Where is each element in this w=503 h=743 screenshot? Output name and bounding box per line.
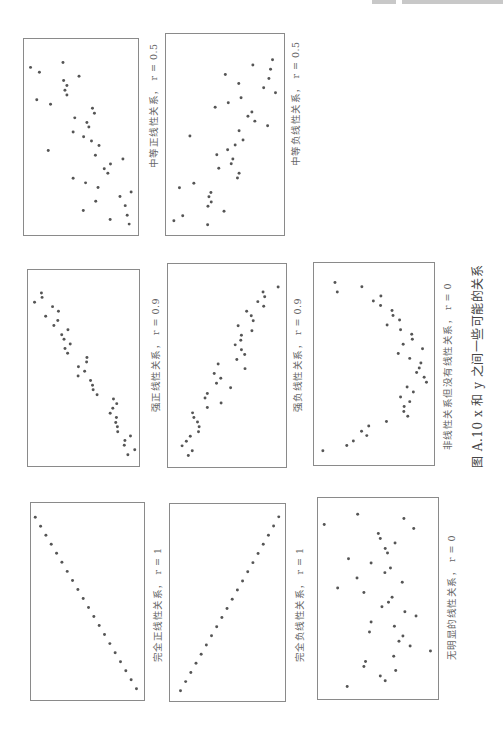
data-point	[242, 138, 245, 141]
data-point	[34, 516, 37, 519]
data-point	[227, 101, 230, 104]
data-point	[236, 176, 239, 179]
data-point	[226, 607, 229, 610]
data-point	[392, 314, 395, 317]
data-point	[63, 89, 66, 92]
data-point	[269, 68, 272, 71]
data-point	[205, 644, 208, 647]
data-point	[198, 425, 201, 428]
data-point	[135, 687, 138, 690]
data-point	[272, 525, 275, 528]
data-point	[231, 158, 234, 161]
data-point	[210, 201, 213, 204]
data-point	[334, 281, 337, 284]
data-point	[78, 75, 81, 78]
data-point	[336, 586, 339, 589]
data-point	[323, 523, 326, 526]
data-point	[93, 112, 96, 115]
data-point	[364, 660, 367, 663]
data-point	[94, 200, 97, 203]
data-point	[244, 367, 247, 370]
data-point	[245, 310, 248, 313]
data-point	[251, 561, 254, 564]
data-point	[215, 625, 218, 628]
data-point	[106, 172, 109, 175]
data-point	[380, 605, 383, 608]
data-point	[103, 633, 106, 636]
data-point	[386, 552, 389, 555]
data-point	[360, 430, 363, 433]
data-point	[425, 381, 428, 384]
data-point	[66, 328, 69, 331]
panel-label-f: 完全正线性关系， r = 1	[150, 547, 164, 662]
data-point	[92, 615, 95, 618]
data-point	[398, 319, 401, 322]
data-point	[240, 348, 243, 351]
data-point	[406, 386, 409, 389]
data-point	[119, 195, 122, 198]
data-point	[236, 589, 239, 592]
data-point	[181, 444, 184, 447]
data-point	[112, 398, 115, 401]
scatter-panel-h	[317, 497, 439, 700]
data-point	[77, 374, 80, 377]
data-point	[356, 513, 359, 516]
data-point	[401, 581, 404, 584]
data-point	[223, 210, 226, 213]
figure-caption: 图 A.10 x 和 y 之间一些可能的关系	[468, 265, 485, 468]
data-point	[116, 430, 119, 433]
data-point	[412, 527, 415, 530]
data-point	[347, 557, 350, 560]
data-point	[253, 120, 256, 123]
data-point	[237, 82, 240, 85]
data-point	[185, 440, 188, 443]
data-point	[379, 304, 382, 307]
data-point	[219, 377, 222, 380]
data-point	[71, 579, 74, 582]
data-point	[87, 606, 90, 609]
data-point	[408, 400, 411, 403]
data-point	[372, 299, 375, 302]
data-point	[33, 301, 36, 304]
data-point	[215, 382, 218, 385]
data-point	[239, 339, 242, 342]
data-point	[209, 191, 212, 194]
data-point	[91, 384, 94, 387]
data-point	[191, 449, 194, 452]
data-point	[60, 333, 63, 336]
data-point	[367, 425, 370, 428]
data-point	[410, 333, 413, 336]
data-point	[250, 314, 253, 317]
data-point	[85, 361, 88, 364]
data-point	[111, 407, 114, 410]
data-point	[411, 338, 414, 341]
data-point	[72, 177, 75, 180]
data-point	[129, 434, 132, 437]
data-point	[262, 86, 265, 89]
data-point	[189, 671, 192, 674]
data-point	[56, 319, 59, 322]
data-point	[406, 415, 409, 418]
data-point	[77, 365, 80, 368]
data-point	[50, 543, 53, 546]
data-point	[360, 285, 363, 288]
data-point	[399, 328, 402, 331]
data-point	[250, 329, 253, 332]
data-point	[370, 562, 373, 565]
data-point	[321, 449, 324, 452]
data-point	[72, 131, 75, 134]
data-point	[47, 149, 50, 152]
data-point	[210, 634, 213, 637]
data-point	[403, 610, 406, 613]
data-point	[352, 439, 355, 442]
data-point	[365, 434, 368, 437]
data-point	[429, 649, 432, 652]
data-point	[274, 91, 277, 94]
data-point	[62, 79, 65, 82]
data-point	[241, 579, 244, 582]
data-point	[130, 678, 133, 681]
data-point	[277, 515, 280, 518]
data-point	[192, 182, 195, 185]
data-point	[229, 386, 232, 389]
data-point	[92, 388, 95, 391]
